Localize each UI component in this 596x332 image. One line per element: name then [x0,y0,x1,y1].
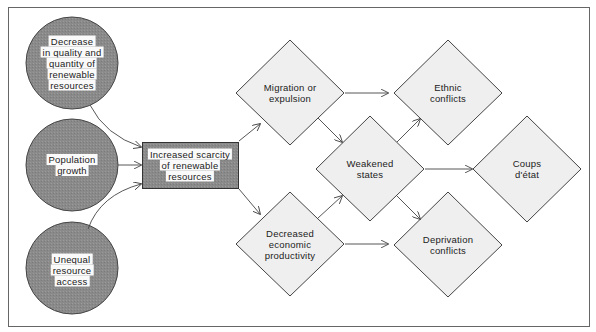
label-line: resources [48,80,96,91]
label-line: renewable [47,69,97,80]
label-line: resource [51,265,94,276]
label-line: states [347,169,394,180]
label-line: Decreased [265,228,315,239]
label-line: Population [47,154,98,165]
node-population-label: Population growth [47,154,98,176]
label-line: Coups [513,158,541,169]
label-line: in quality and [41,47,104,58]
label-line: d'état [513,169,541,180]
node-migration-label: Migration or expulsion [264,82,317,104]
label-line: Weakened [347,158,394,169]
label-line: conflicts [430,93,466,104]
node-ethnic-label: Ethnic conflicts [430,82,466,104]
label-line: resources [166,171,214,182]
label-line: of renewable [160,160,221,171]
label-line: productivity [265,250,315,261]
node-decrease-label: Decrease in quality and quantity of rene… [41,36,104,91]
node-productivity-label: Decreased economic productivity [265,228,315,261]
label-line: Unequal [52,254,93,265]
label-line: growth [55,165,89,176]
label-line: Deprivation [423,234,473,245]
label-line: quantity of [47,58,97,69]
label-line: Migration or [264,82,317,93]
label-line: access [55,276,90,287]
node-deprivation-label: Deprivation conflicts [423,234,473,256]
label-line: Increased scarcity [148,149,232,160]
label-line: Ethnic [430,82,466,93]
node-weakened-label: Weakened states [347,158,394,180]
node-scarcity-label: Increased scarcity of renewable resource… [148,149,232,182]
label-line: Decrease [49,36,95,47]
label-line: expulsion [264,93,317,104]
node-unequal-label: Unequal resource access [51,254,94,287]
label-line: economic [265,239,315,250]
label-line: conflicts [423,245,473,256]
node-coups-label: Coups d'état [513,158,541,180]
